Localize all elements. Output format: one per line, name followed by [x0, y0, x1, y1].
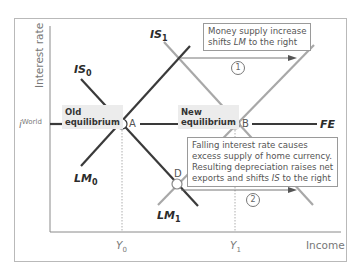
old-equilibrium-box: Old equilibrium — [62, 105, 123, 129]
fe-label: FE — [320, 118, 335, 131]
step-1-badge: 1 — [231, 61, 245, 75]
i-world-label: iWorld — [19, 118, 42, 130]
lm1-label: LM1 — [157, 209, 181, 224]
new-equilibrium-box: New equilibrium — [178, 105, 239, 129]
lm0-label: LM0 — [74, 172, 98, 187]
point-d-label: D — [174, 168, 182, 179]
note-step-2: Falling interest rate causes excess supp… — [187, 137, 338, 187]
point-d-marker — [172, 179, 182, 189]
point-b-label: B — [242, 118, 249, 129]
note-step-1: Money supply increase shifts LM to the r… — [203, 23, 311, 51]
is0-label: IS0 — [74, 63, 92, 78]
x-axis-label: Income — [306, 239, 345, 251]
arrow-1-head — [288, 55, 297, 61]
y0-label: Y0 — [116, 239, 127, 254]
y1-label: Y1 — [230, 239, 241, 254]
is1-label: IS1 — [150, 28, 168, 43]
arrow-2-head — [288, 187, 297, 193]
y-axis-label: Interest rate — [33, 23, 45, 88]
point-a-label: A — [129, 118, 136, 129]
step-2-badge: 2 — [246, 193, 260, 207]
